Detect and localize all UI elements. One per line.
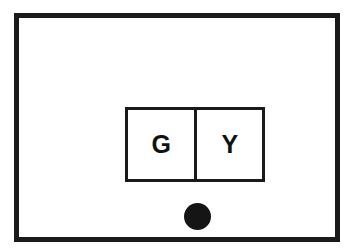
figure-canvas: G Y [0, 0, 351, 248]
cell-left-letter: G [152, 132, 171, 157]
cell-right-letter: Y [221, 132, 238, 157]
marker-dot-icon [184, 203, 211, 230]
cell-right: Y [197, 110, 262, 179]
outer-frame-rectangle: G Y [14, 13, 340, 242]
cell-left: G [128, 110, 197, 179]
inner-box: G Y [125, 107, 265, 182]
